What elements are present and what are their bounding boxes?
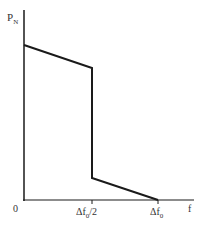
- power-spectrum-diagram: PN 0 Δf0/2 Δf0 f: [0, 0, 206, 228]
- tick-label-half: Δf0/2: [76, 206, 97, 220]
- origin-label: 0: [13, 203, 18, 214]
- x-axis-label: f: [188, 203, 192, 214]
- spectrum-curve: [24, 45, 158, 200]
- y-axis-label: PN: [7, 11, 18, 26]
- diagram-canvas: PN 0 Δf0/2 Δf0 f: [0, 0, 206, 228]
- tick-label-full: Δf0: [150, 206, 164, 220]
